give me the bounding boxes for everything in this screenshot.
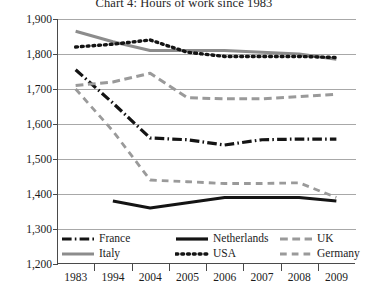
chart-title: Chart 4: Hours of work since 1983 <box>0 0 368 11</box>
x-tick-label: 2009 <box>325 271 348 283</box>
y-tick-label: 1,800 <box>26 48 52 60</box>
y-tick-label: 1,400 <box>26 188 52 200</box>
legend-label: UK <box>317 233 334 245</box>
x-tick-label: 2004 <box>139 271 162 283</box>
y-tick-label: 1,700 <box>26 83 52 95</box>
legend-item[interactable]: Netherlands <box>175 233 269 245</box>
legend-label: France <box>99 233 130 245</box>
y-tick-label: 1,200 <box>26 258 52 270</box>
x-tick-label: 2007 <box>250 271 273 283</box>
legend-item[interactable]: Italy <box>61 248 120 260</box>
x-tick <box>243 264 244 271</box>
x-tick <box>318 264 319 271</box>
y-tick-label: 1,600 <box>26 118 52 130</box>
legend-swatch-usa-icon <box>175 249 209 259</box>
legend-item[interactable]: Germany <box>279 248 360 260</box>
legend-swatch-france-icon <box>61 234 95 244</box>
legend-swatch-netherlands-icon <box>175 234 209 244</box>
x-tick-label: 1994 <box>101 271 124 283</box>
legend-swatch-uk-icon <box>279 234 313 244</box>
series-line-uk <box>76 73 337 99</box>
x-tick-label: 2006 <box>213 271 236 283</box>
legend-swatch-germany-icon <box>279 249 313 259</box>
y-tick-label: 1,500 <box>26 153 52 165</box>
x-tick <box>132 264 133 271</box>
y-axis-labels: 1,9001,8001,7001,6001,5001,4001,3001,200 <box>0 19 52 264</box>
x-tick-label: 2008 <box>288 271 311 283</box>
y-tick-label: 1,300 <box>26 223 52 235</box>
series-layer <box>57 19 355 264</box>
legend-item[interactable]: USA <box>175 248 236 260</box>
x-tick-label: 2005 <box>176 271 199 283</box>
x-axis-labels: 19831994200420052006200720082009 <box>57 271 355 291</box>
chart-legend: FranceNetherlandsUKItalyUSAGermany <box>57 233 355 264</box>
y-tick-label: 1,900 <box>26 13 52 25</box>
x-tick-label: 1983 <box>64 271 87 283</box>
x-tick <box>94 264 95 271</box>
legend-label: Italy <box>99 248 120 260</box>
legend-label: Germany <box>317 248 360 260</box>
legend-item[interactable]: France <box>61 233 130 245</box>
series-line-netherlands <box>113 198 337 209</box>
x-tick <box>206 264 207 271</box>
x-tick <box>281 264 282 271</box>
legend-swatch-italy-icon <box>61 249 95 259</box>
legend-label: Netherlands <box>213 233 269 245</box>
legend-label: USA <box>213 248 236 260</box>
legend-item[interactable]: UK <box>279 233 334 245</box>
x-tick <box>169 264 170 271</box>
